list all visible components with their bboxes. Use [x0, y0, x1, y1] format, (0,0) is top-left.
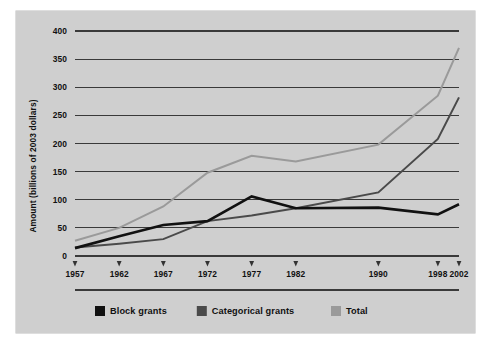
legend-label-block-grants: Block grants — [110, 306, 167, 316]
legend-swatch-block-grants — [95, 306, 105, 316]
x-tick-label-1972: 1972 — [198, 269, 217, 279]
x-tick-mark-1972 — [205, 261, 210, 267]
x-tick-label-1998: 1998 — [428, 269, 447, 279]
y-tick-label-150: 150 — [53, 167, 68, 177]
x-tick-mark-1962 — [117, 261, 122, 267]
y-tick-label-400: 400 — [53, 26, 68, 36]
legend-label-total: Total — [346, 306, 368, 316]
x-tick-label-1957: 1957 — [65, 269, 84, 279]
x-axis-tick-labels: 195719621967197219771982199019982002 — [65, 269, 468, 279]
x-tick-mark-2002 — [457, 261, 462, 267]
x-tick-label-1967: 1967 — [154, 269, 173, 279]
legend-swatch-categorical-grants — [197, 306, 207, 316]
x-tick-mark-1957 — [73, 261, 78, 267]
legend-label-categorical-grants: Categorical grants — [212, 306, 294, 316]
chart-figure: 050100150200250300350400 195719621967197… — [0, 0, 489, 344]
y-tick-label-350: 350 — [53, 54, 68, 64]
y-tick-label-0: 0 — [62, 251, 67, 261]
x-tick-mark-1990 — [376, 261, 381, 267]
series-line-categorical-grants — [75, 97, 459, 247]
line-chart-plot: 050100150200250300350400 195719621967197… — [16, 11, 475, 333]
chart-panel: 050100150200250300350400 195719621967197… — [16, 11, 475, 333]
x-tick-label-1962: 1962 — [110, 269, 129, 279]
x-tick-label-1977: 1977 — [242, 269, 261, 279]
x-tick-mark-1967 — [161, 261, 166, 267]
x-tick-label-1990: 1990 — [369, 269, 388, 279]
chart-legend: Block grantsCategorical grantsTotal — [95, 306, 368, 316]
x-tick-label-2002: 2002 — [449, 269, 468, 279]
x-tick-mark-1998 — [435, 261, 440, 267]
y-tick-label-250: 250 — [53, 110, 68, 120]
y-tick-label-300: 300 — [53, 82, 68, 92]
y-tick-label-100: 100 — [53, 195, 68, 205]
x-tick-mark-1982 — [293, 261, 298, 267]
y-axis-tick-labels: 050100150200250300350400 — [53, 26, 68, 261]
y-axis-title: Amount (billions of 2003 dollars) — [28, 99, 38, 232]
x-axis-tick-marks — [73, 261, 462, 267]
legend-swatch-total — [331, 306, 341, 316]
x-tick-label-1982: 1982 — [286, 269, 305, 279]
x-tick-mark-1977 — [249, 261, 254, 267]
data-series-group — [75, 48, 459, 248]
y-tick-label-200: 200 — [53, 139, 68, 149]
series-line-total — [75, 48, 459, 241]
y-tick-label-50: 50 — [57, 223, 67, 233]
